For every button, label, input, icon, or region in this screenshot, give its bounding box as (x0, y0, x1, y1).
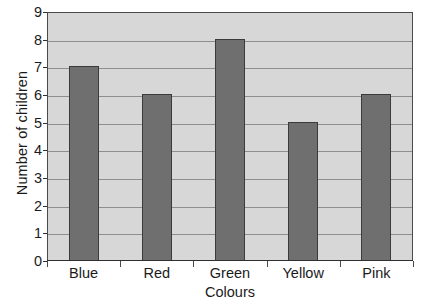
y-tick-label: 4 (26, 143, 42, 158)
y-tick-label: 7 (26, 60, 42, 75)
bar-pink (361, 94, 391, 260)
plot-area (47, 12, 413, 261)
y-tick-label: 5 (26, 115, 42, 130)
y-tick-label: 2 (26, 198, 42, 213)
x-tick-label-yellow: Yellow (267, 265, 340, 281)
bar-yellow (288, 122, 318, 260)
bar-red (142, 94, 172, 260)
bar-slot-pink (339, 13, 412, 260)
x-axis-tick-labels: BlueRedGreenYellowPink (47, 265, 413, 281)
x-axis-title: Colours (47, 284, 413, 300)
y-tick-label: 8 (26, 32, 42, 47)
x-tick-label-blue: Blue (47, 265, 120, 281)
bar-slot-blue (48, 13, 121, 260)
y-tick-label: 6 (26, 88, 42, 103)
bar-slot-red (121, 13, 194, 260)
x-tick-label-red: Red (120, 265, 193, 281)
x-tick-label-green: Green (193, 265, 266, 281)
y-axis-tick-labels: 0123456789 (26, 12, 42, 261)
bars-layer (48, 13, 412, 260)
bar-blue (69, 66, 99, 260)
y-tick-label: 3 (26, 171, 42, 186)
x-tick-label-pink: Pink (340, 265, 413, 281)
y-tick-label: 1 (26, 226, 42, 241)
x-tick-mark (413, 261, 414, 267)
bar-slot-yellow (266, 13, 339, 260)
y-tick-label: 9 (26, 5, 42, 20)
bar-chart-figure: Number of children 0123456789 BlueRedGre… (0, 0, 424, 304)
bar-slot-green (194, 13, 267, 260)
y-tick-label: 0 (26, 254, 42, 269)
bar-green (215, 39, 245, 260)
